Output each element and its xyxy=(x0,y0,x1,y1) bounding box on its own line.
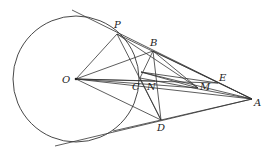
label-d: D xyxy=(156,122,165,133)
label-o: O xyxy=(62,74,70,85)
label-m: M xyxy=(199,81,211,92)
label-a: A xyxy=(253,97,261,108)
segment-op xyxy=(76,34,117,79)
point-labels: OPBCNMEAD xyxy=(62,19,261,133)
segment-pm xyxy=(117,34,198,88)
label-b: B xyxy=(149,37,157,48)
segment-fa xyxy=(141,72,252,99)
label-n: N xyxy=(146,81,157,92)
label-c: C xyxy=(132,81,140,92)
segment-da xyxy=(161,99,252,120)
geometry-figure: OPBCNMEAD xyxy=(0,0,267,155)
segment-dq xyxy=(113,120,161,131)
label-p: P xyxy=(113,19,121,30)
label-e: E xyxy=(218,72,227,83)
center-dot xyxy=(75,78,78,81)
